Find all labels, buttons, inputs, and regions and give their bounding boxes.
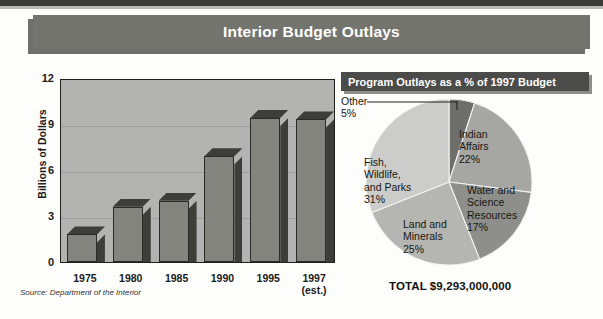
pie-slice-label-line: Resources	[467, 209, 517, 221]
bar-front-face	[159, 201, 189, 262]
pie-slice-label-line: Minerals	[403, 230, 447, 242]
pie-slice-label-line: 22%	[459, 153, 489, 165]
pie-slice-label-line: and Parks	[364, 181, 411, 193]
pie-slice-label-line: Wildlife,	[364, 168, 411, 180]
bar	[296, 111, 334, 262]
bar-top-face	[250, 110, 288, 118]
pie-header-bar: Program Outlays as a % of 1997 Budget	[341, 72, 589, 91]
bar-side-face	[97, 234, 105, 262]
bar-side-face	[280, 118, 288, 262]
y-axis-tick-label: 0	[32, 256, 54, 268]
y-axis-tick-label: 9	[32, 118, 54, 130]
bar-top-face	[113, 199, 151, 207]
pie-slice-label-line: Affairs	[459, 140, 489, 152]
bar	[67, 226, 105, 262]
pie-slice-label: Other5%	[341, 95, 367, 120]
pie-slice-label: IndianAffairs22%	[459, 128, 489, 165]
bar-front-face	[296, 119, 326, 262]
pie-slice-label-line: 17%	[467, 221, 517, 233]
scan-edge-fade	[0, 6, 603, 9]
pie-slice-label-line: Other	[341, 95, 367, 107]
title-banner: Interior Budget Outlays	[33, 15, 590, 49]
pie-slice-label-line: 31%	[364, 193, 411, 205]
source-note: Source: Department of the Interior	[20, 288, 141, 297]
bar-top-face	[159, 193, 197, 201]
bar-chart: Billions of Dollars 036912 1975198019851…	[18, 70, 338, 310]
pie-slice-label-line: Science	[467, 196, 517, 208]
gridline	[61, 172, 334, 173]
bar	[204, 148, 242, 262]
gridline	[61, 218, 334, 219]
pie-slice-label-line: Fish,	[364, 156, 411, 168]
y-axis-tick-label: 6	[32, 164, 54, 176]
pie-chart: TOTAL $9,293,000,000 Other5%IndianAffair…	[341, 94, 593, 309]
bar-front-face	[113, 207, 143, 262]
bar	[159, 193, 197, 262]
page-title: Interior Budget Outlays	[223, 23, 400, 41]
bar-top-face	[296, 111, 334, 119]
bar-side-face	[143, 207, 151, 262]
pie-slice-label-line: Water and	[467, 184, 517, 196]
x-axis-tick-line: 1997	[287, 272, 341, 284]
pie-slice-label-line: 25%	[403, 243, 447, 255]
bar-side-face	[189, 201, 197, 262]
bar-top-face	[204, 148, 242, 156]
gridline	[61, 126, 334, 127]
bar-chart-y-ticks: 036912	[28, 70, 54, 270]
x-axis-tick-label: 1997(est.)	[287, 272, 341, 296]
bar-chart-plot-area	[60, 79, 335, 263]
pie-slice-label-line: Indian	[459, 128, 489, 140]
pie-slice-label-line: 5%	[341, 107, 367, 119]
x-axis-tick-line: (est.)	[287, 284, 341, 296]
bar-top-face	[67, 226, 105, 234]
bar-front-face	[67, 234, 97, 262]
pie-chart-title: Program Outlays as a % of 1997 Budget	[341, 76, 556, 88]
y-axis-tick-label: 3	[32, 210, 54, 222]
bar-side-face	[326, 119, 334, 262]
pie-slice-label: Land andMinerals25%	[403, 218, 447, 255]
pie-slice-label: Water andScienceResources17%	[467, 184, 517, 234]
bar-chart-x-ticks: 197519801985199019951997(est.)	[60, 266, 335, 306]
bar-side-face	[234, 156, 242, 262]
y-axis-tick-label: 12	[32, 72, 54, 84]
pie-slice-label-line: Land and	[403, 218, 447, 230]
pie-total-label: TOTAL $9,293,000,000	[389, 280, 511, 292]
bar-front-face	[250, 118, 280, 262]
figure-page: Interior Budget Outlays Billions of Doll…	[0, 0, 603, 319]
bar	[113, 199, 151, 262]
pie-slice-label: Fish,Wildlife,and Parks31%	[364, 156, 411, 206]
bar-front-face	[204, 156, 234, 262]
bar	[250, 110, 288, 262]
